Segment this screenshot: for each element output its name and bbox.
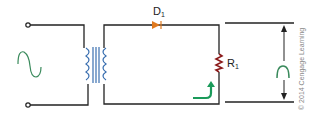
current-flow-arrow-icon [193,81,215,98]
secondary-wire-top [104,25,219,54]
diode-icon [152,21,161,29]
secondary-wire-bottom [104,72,219,104]
resistor-label: R1 [227,58,239,70]
ac-source-wave-icon [18,52,41,77]
transformer-icon [86,47,106,83]
input-terminal-bottom [26,103,30,107]
input-terminal-top [26,23,30,27]
primary-wire-bottom [30,84,88,105]
copyright-credit: © 2014 Cengage Learning [298,28,305,110]
output-waveform-icon [277,66,289,78]
output-voltage-arrow-icon [281,25,287,100]
primary-wire-top [30,25,84,48]
diode-label: D1 [153,6,165,18]
resistor-icon [216,54,222,72]
